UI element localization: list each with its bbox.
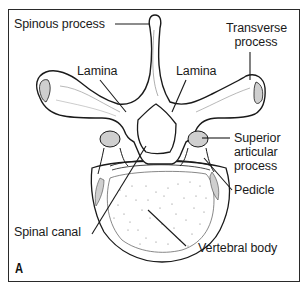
label-lamina-left: Lamina: [77, 64, 117, 78]
label-transverse-line1: Transverse: [226, 21, 286, 35]
label-pedicle: Pedicle: [234, 183, 274, 197]
left-superior-facet: [100, 131, 120, 147]
label-spinal-canal: Spinal canal: [14, 225, 81, 239]
label-transverse-process: Transverse process: [226, 21, 286, 49]
panel-letter: A: [15, 260, 23, 276]
label-lamina-right: Lamina: [176, 64, 216, 78]
label-superior-articular-process: Superior articular process: [234, 131, 280, 173]
label-superior-line2: articular: [234, 145, 280, 159]
right-superior-facet: [188, 131, 208, 147]
label-transverse-line2: process: [226, 35, 286, 49]
label-vertebral-body: Vertebral body: [198, 241, 277, 255]
label-spinous-process: Spinous process: [14, 17, 105, 31]
label-superior-line3: process: [234, 159, 280, 173]
label-superior-line1: Superior: [234, 131, 280, 145]
